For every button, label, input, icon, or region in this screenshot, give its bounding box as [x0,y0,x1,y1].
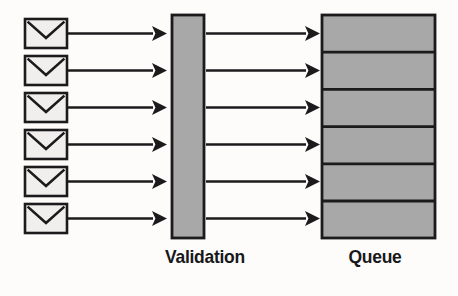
diagram-canvas: Validation Queue [0,0,458,296]
queue-label: Queue [306,246,444,268]
message-3 [25,93,67,122]
message-5 [25,167,67,196]
input-arrow-6-head [152,211,167,226]
message-2 [25,56,67,85]
input-arrow-group [67,34,153,219]
output-arrow-1-head [305,26,320,41]
input-arrow-2-head [152,63,167,78]
output-arrow-3-head [305,100,320,115]
output-arrow-5-head [305,174,320,189]
queue-box [322,15,435,238]
validation-box [172,15,204,238]
input-arrow-4-head [152,137,167,152]
output-arrowheads [305,26,320,226]
output-arrow-group [206,34,306,219]
message-4 [25,130,67,159]
input-arrow-1-head [152,26,167,41]
message-source-column [25,19,67,233]
input-arrow-3-head [152,100,167,115]
input-arrow-5-head [152,174,167,189]
validation-label: Validation [118,246,293,268]
input-arrowheads [152,26,167,226]
output-arrow-2-head [305,63,320,78]
message-6 [25,204,67,233]
output-arrow-6-head [305,211,320,226]
output-arrow-4-head [305,137,320,152]
message-1 [25,19,67,48]
